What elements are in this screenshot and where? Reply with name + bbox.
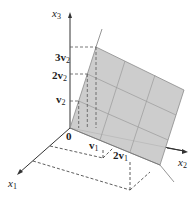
span-plane-diagram: x3 x1 x2 0 v2 2v2 3v2 v1 2v1 (0, 0, 196, 201)
origin-label: 0 (66, 131, 72, 142)
x2-axis-tip (167, 148, 184, 151)
x2-axis-label: x2 (178, 157, 187, 170)
x1-axis-label: x1 (8, 178, 17, 191)
v1-line-extension (160, 165, 174, 182)
v2-line-extension (96, 29, 102, 47)
v2-label: v2 (56, 94, 66, 107)
x2-arrow-icon (182, 149, 188, 154)
2v1-label: 2v1 (113, 150, 128, 163)
3v2-label: 3v2 (55, 52, 70, 65)
x3-axis-label: x3 (52, 8, 61, 21)
diagram-canvas (0, 0, 196, 201)
2v2-label: 2v2 (52, 70, 67, 83)
v1-label: v1 (89, 140, 99, 153)
x3-arrow-icon (68, 12, 72, 18)
x1-axis (19, 128, 70, 173)
